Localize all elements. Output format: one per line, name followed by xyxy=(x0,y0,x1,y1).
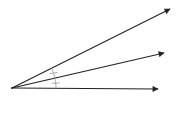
lower-ray xyxy=(12,88,158,89)
middle-ray xyxy=(12,53,164,88)
upper-ray xyxy=(12,9,170,88)
vertex-point xyxy=(11,87,13,89)
angle-diagram xyxy=(0,0,183,127)
